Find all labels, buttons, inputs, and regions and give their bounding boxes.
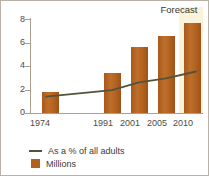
plot-area — [31, 19, 203, 113]
legend-label: Millions — [46, 159, 76, 169]
legend-item-percent: As a % of all adults — [29, 144, 125, 157]
y-axis-tick-label: 6 — [9, 38, 25, 47]
x-axis-tick-label: 2001 — [116, 118, 144, 128]
y-axis-tick-label: 2 — [9, 85, 25, 94]
chart-figure: 8 6 4 2 0 Forecast 1974 1991 2001 2005 2… — [0, 0, 209, 176]
line-marker-icon — [29, 150, 42, 152]
chart-legend: As a % of all adults Millions — [29, 144, 125, 170]
legend-item-millions: Millions — [29, 157, 125, 170]
y-axis-tick-label: 8 — [9, 15, 25, 24]
square-marker-icon — [31, 159, 40, 168]
x-axis-tick-label: 2010 — [169, 118, 197, 128]
trend-line-path — [46, 72, 196, 97]
forecast-annotation-label: Forecast — [153, 4, 205, 15]
x-axis-tick-label: 1991 — [89, 118, 117, 128]
y-axis-tick-label: 0 — [9, 108, 25, 117]
y-axis-tick-label: 4 — [9, 61, 25, 70]
trend-line — [31, 19, 203, 113]
legend-label: As a % of all adults — [48, 146, 125, 156]
x-axis-line — [25, 113, 203, 114]
x-axis-tick-label: 2005 — [143, 118, 171, 128]
x-axis-tick-label: 1974 — [26, 118, 54, 128]
